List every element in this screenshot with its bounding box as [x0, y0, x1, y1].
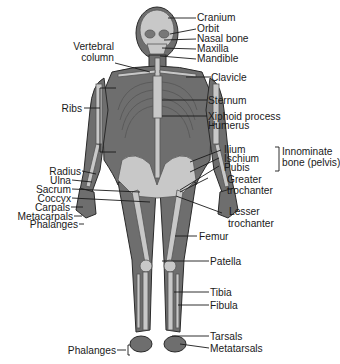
label-innominate-line2: bone (pelvis) [282, 158, 340, 168]
label-vertebral-column-line1: Vertebral [60, 42, 114, 52]
label-greater-trochanter-line1: Greater [227, 175, 262, 185]
label-phalanges-hand: Phalanges [10, 220, 78, 230]
label-pubis: Pubis [224, 163, 249, 173]
label-innominate-line1: Innominate [282, 147, 332, 157]
label-greater-trochanter-line2: trochanter [227, 186, 273, 196]
label-humerus: Humerus [208, 121, 249, 131]
label-lesser-trochanter-line2: trochanter [228, 219, 274, 229]
label-phalanges-foot: Phalanges [60, 346, 116, 356]
label-ribs: Ribs [40, 104, 82, 114]
label-tarsals: Tarsals [210, 332, 242, 342]
label-clavicle: Clavicle [211, 73, 247, 83]
label-fibula: Fibula [210, 301, 238, 311]
label-femur: Femur [199, 232, 228, 242]
label-mandible: Mandible [197, 54, 238, 64]
label-sternum: Sternum [208, 96, 247, 106]
label-metatarsals: Metatarsals [210, 344, 263, 354]
label-lesser-trochanter-line1: Lesser [229, 207, 260, 217]
label-patella: Patella [210, 257, 241, 267]
label-cranium: Cranium [197, 13, 236, 23]
label-tibia: Tibia [210, 288, 232, 298]
label-vertebral-column-line2: column [60, 53, 114, 63]
